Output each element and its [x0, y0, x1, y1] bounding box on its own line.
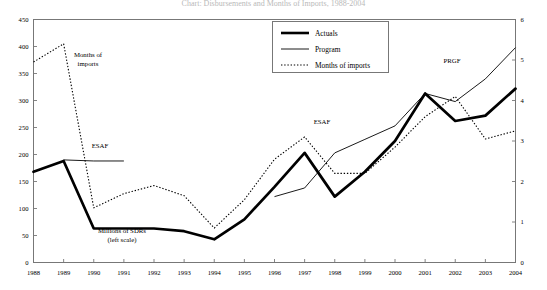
prgf-annotation: PRGF [443, 57, 460, 64]
x-axis-tick-label: 1998 [328, 269, 342, 276]
millions-of-sdrs-annotation-line2: (left scale) [108, 236, 137, 244]
right-axis-tick-label: 6 [521, 16, 525, 23]
esaf-program-2 [275, 93, 426, 196]
esaf-program-1 [64, 160, 124, 161]
x-axis-tick-label: 1990 [87, 269, 101, 276]
x-axis-tick-labels: 1988198919901991199219931994199519961997… [27, 269, 523, 276]
right-axis-ticks [512, 20, 516, 263]
left-axis-tick-labels: 050100150200250300350400450 [19, 16, 30, 266]
x-axis-tick-label: 1997 [298, 269, 312, 276]
chart-annotations: Months ofimportsESAFESAFPRGFMillions of … [74, 51, 461, 244]
left-axis-tick-label: 250 [19, 124, 30, 131]
esaf-annotation-2: ESAF [314, 118, 331, 125]
right-axis-tick-label: 5 [521, 56, 525, 63]
chart-canvas: 050100150200250300350400450 0123456 1988… [0, 0, 547, 290]
x-axis-ticks [34, 259, 516, 263]
x-axis-tick-label: 1991 [117, 269, 130, 276]
left-axis-tick-label: 100 [19, 205, 30, 212]
millions-of-sdrs-annotation: Millions of SDRs [98, 227, 146, 234]
right-axis-tick-label: 0 [521, 259, 525, 266]
x-axis-tick-label: 2003 [479, 269, 493, 276]
x-axis-tick-label: 1995 [238, 269, 252, 276]
right-axis-tick-label: 1 [521, 218, 524, 225]
x-axis-tick-label: 1999 [358, 269, 372, 276]
x-axis-tick-label: 2004 [509, 269, 523, 276]
left-axis-tick-label: 300 [19, 97, 30, 104]
actuals-line [34, 89, 516, 240]
legend-label-program: Program [315, 45, 341, 54]
chart-legend: Actuals Program Months of imports [273, 22, 389, 73]
x-axis-tick-label: 1994 [208, 269, 222, 276]
months-of-imports-annotation-line2: imports [78, 60, 99, 67]
series-actuals [34, 89, 516, 240]
right-axis-tick-label: 3 [521, 137, 525, 144]
left-axis-tick-label: 450 [19, 16, 30, 23]
x-axis-tick-label: 1996 [268, 269, 282, 276]
left-axis-tick-label: 0 [25, 259, 29, 266]
left-axis-tick-label: 50 [22, 232, 29, 239]
legend-label-months-of-imports: Months of imports [315, 61, 370, 70]
chart-figure: 050100150200250300350400450 0123456 1988… [0, 0, 547, 290]
x-axis-tick-label: 1988 [27, 269, 41, 276]
left-axis-tick-label: 350 [19, 70, 30, 77]
esaf-annotation-1: ESAF [92, 142, 109, 149]
prgf-program [425, 48, 515, 102]
legend-label-actuals: Actuals [315, 29, 338, 38]
x-axis-tick-label: 2001 [419, 269, 432, 276]
right-axis-tick-label: 4 [521, 97, 525, 104]
x-axis-tick-label: 1993 [178, 269, 192, 276]
x-axis-tick-label: 1989 [57, 269, 71, 276]
left-axis-ticks [34, 20, 38, 263]
right-axis-tick-label: 2 [521, 178, 524, 185]
right-axis-tick-labels: 0123456 [521, 16, 525, 266]
x-axis-tick-label: 1992 [147, 269, 160, 276]
x-axis-tick-label: 2002 [449, 269, 462, 276]
x-axis-tick-label: 2000 [388, 269, 402, 276]
left-axis-tick-label: 400 [19, 43, 30, 50]
left-axis-tick-label: 150 [19, 178, 30, 185]
months-of-imports-annotation: Months of [74, 51, 103, 58]
left-axis-tick-label: 200 [19, 151, 30, 158]
